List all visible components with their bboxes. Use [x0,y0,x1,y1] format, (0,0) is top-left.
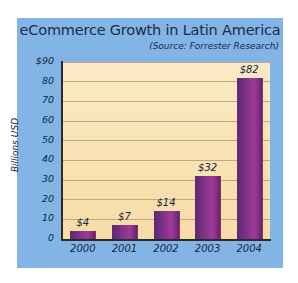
bar [70,231,96,239]
y-axis-tick-label: $90 [8,55,54,66]
y-axis-tick-label: 10 [8,212,54,223]
y-axis-line [61,61,63,240]
bar [112,225,138,239]
y-axis-tick-label: 20 [8,193,54,204]
chart-subtitle-source: (Source: Forrester Research) [17,41,279,51]
bar-value-label: $82 [225,64,273,75]
bar-value-label: $7 [100,211,148,222]
bar-value-label: $14 [142,197,190,208]
chart-container: eCommerce Growth in Latin America (Sourc… [0,0,298,283]
y-axis-tick-label: 80 [8,75,54,86]
bar [154,211,180,239]
x-axis-tick-label: 2004 [225,243,273,254]
chart-title: eCommerce Growth in Latin America [17,22,283,38]
bar [237,78,263,239]
gridline [62,62,270,63]
y-axis-tick-label: 0 [8,232,54,243]
bar-value-label: $32 [184,162,232,173]
bar [195,176,221,239]
y-axis-title: Billions USD [10,102,20,188]
x-axis-line [61,239,271,241]
